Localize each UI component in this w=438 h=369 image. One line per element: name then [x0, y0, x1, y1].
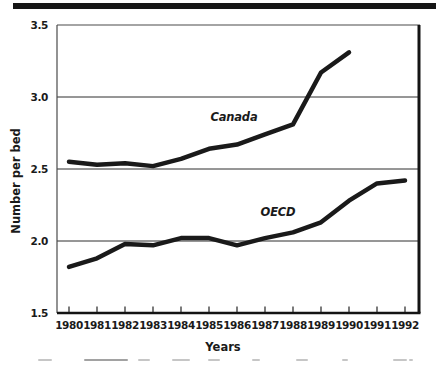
x-tick-label: 1988: [279, 319, 307, 331]
canada-series-line: [69, 52, 349, 166]
x-tick-label: 1983: [139, 319, 167, 331]
cropped-caption-mark: [409, 359, 413, 361]
oecd-series-line: [69, 181, 405, 267]
x-tick-label: 1992: [391, 319, 419, 331]
cropped-caption-mark: [342, 359, 348, 361]
x-tick-label: 1986: [223, 319, 251, 331]
cropped-caption-mark: [138, 359, 150, 361]
x-tick-label: 1981: [83, 319, 111, 331]
x-tick-label: 1984: [167, 319, 195, 331]
x-tick-label: 1980: [55, 319, 83, 331]
x-tick-label: 1990: [335, 319, 363, 331]
x-tick-label: 1982: [111, 319, 139, 331]
y-tick-label: 2.0: [31, 235, 48, 247]
canada-series-label: Canada: [211, 110, 258, 124]
y-tick-label: 3.0: [31, 91, 48, 103]
x-tick-label: 1985: [195, 319, 223, 331]
line-chart-figure: 1.52.02.53.03.5 198019811982198319841985…: [0, 0, 438, 369]
x-tick-label: 1991: [363, 319, 391, 331]
cropped-caption-mark: [252, 359, 260, 361]
y-axis-title: Number per bed: [9, 128, 23, 233]
cropped-caption-mark: [84, 359, 128, 361]
y-tick-label: 2.5: [31, 163, 48, 175]
cropped-caption-mark: [208, 359, 220, 361]
cropped-caption-mark: [172, 359, 190, 361]
oecd-series-label: OECD: [261, 205, 296, 219]
chart-plot-area: [0, 0, 438, 369]
y-tick-label: 1.5: [31, 307, 48, 319]
cropped-caption-mark: [393, 359, 407, 361]
cropped-caption-mark: [38, 359, 52, 361]
x-axis-title: Years: [205, 340, 240, 354]
x-tick-label: 1987: [251, 319, 279, 331]
y-tick-label: 3.5: [31, 19, 48, 31]
cropped-caption-mark: [296, 359, 308, 361]
x-tick-label: 1989: [307, 319, 335, 331]
